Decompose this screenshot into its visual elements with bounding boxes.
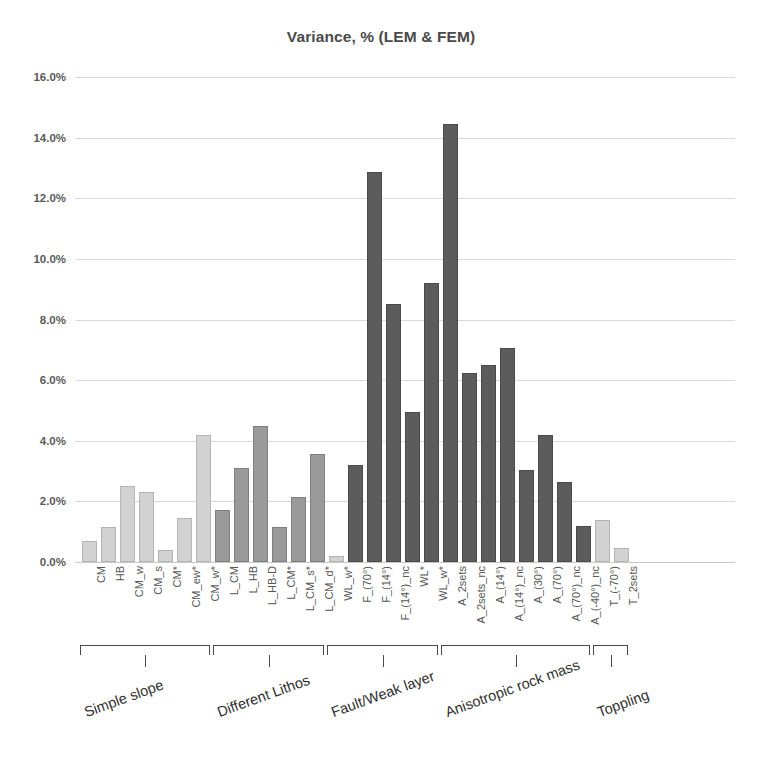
x-axis-tick-label: CM* [171,566,183,587]
bar [196,435,211,562]
x-axis-tick-label: T_(-70°) [608,566,620,606]
chart-title: Variance, % (LEM & FEM) [0,28,762,46]
gridline-00 [75,562,735,563]
bar [348,465,363,562]
group-brace-tick [383,655,384,667]
x-axis-tick-label: CM_w [133,566,145,597]
group-brace-tick [516,655,517,667]
x-axis-tick-label: L_CM [228,566,240,595]
x-axis-tick-label: CM_ew* [190,566,202,608]
x-axis-tick-label: A_(70°)_nc [570,566,582,621]
bar [614,548,629,562]
x-axis-tick-label: A_(70°) [551,566,563,603]
x-axis-tick-label: A_(14°)_nc [513,566,525,621]
x-axis-tick-label: WL* [418,566,430,587]
bar [291,497,306,562]
group-brace-tick [269,655,270,667]
x-axis-tick-label: L_CM_d* [323,566,335,612]
bar [215,510,230,562]
y-axis-tick-label: 6.0% [0,374,66,386]
y-axis-tick-label: 8.0% [0,314,66,326]
gridline-160 [75,77,735,78]
x-axis-tick-label: A_2sets_nc [475,566,487,623]
group-brace [213,645,324,655]
x-axis-tick-label: A_2sets [456,566,468,606]
x-axis-tick-label: T_2sets [627,566,639,605]
bar [519,470,534,562]
bar [329,556,344,562]
bar [234,468,249,562]
x-axis-tick-label: CM_w* [209,566,221,601]
gridline-60 [75,380,735,381]
x-axis-tick-label: HB [114,566,126,581]
group-brace [327,645,438,655]
bar [386,304,401,562]
x-axis-tick-label: F_(14°)_nc [399,566,411,621]
bar [158,550,173,562]
group-label: Toppling [595,687,651,721]
x-axis-tick-label: A_(30°) [532,566,544,603]
y-axis-tick-label: 10.0% [0,253,66,265]
x-axis-tick-label: L_CM_s* [304,566,316,611]
chart-container: Variance, % (LEM & FEM) 0.0%2.0%4.0%6.0%… [0,0,762,780]
group-brace [593,645,628,655]
bar [576,526,591,562]
group-label: Fault/Weak layer [329,668,436,720]
bar [177,518,192,562]
x-axis-tick-label: L_CM* [285,566,297,600]
bar [557,482,572,562]
bar [101,527,116,562]
y-axis-tick-label: 14.0% [0,132,66,144]
x-axis-tick-label: F_(14°) [380,566,392,603]
y-axis-tick-label: 4.0% [0,435,66,447]
group-brace-tick [611,655,612,667]
gridline-80 [75,320,735,321]
group-label: Simple slope [82,677,165,720]
y-axis-tick-label: 12.0% [0,192,66,204]
y-axis-tick-label: 2.0% [0,495,66,507]
bar [405,412,420,562]
bar [462,373,477,562]
y-axis-tick-label: 16.0% [0,71,66,83]
bar [82,541,97,562]
bar [120,486,135,562]
group-brace [441,645,590,655]
bar [310,454,325,562]
x-axis-tick-label: L_HB [247,566,259,594]
x-axis-tick-label: WL_w* [437,566,449,601]
gridline-140 [75,138,735,139]
x-axis-tick-label: L_HB-D [266,566,278,605]
group-label: Different Lithos [215,672,312,720]
bar [253,426,268,562]
bar [272,527,287,562]
x-axis-tick-label: F_(70°) [361,566,373,603]
group-label: Anisotropic rock mass [443,656,582,720]
group-brace [80,645,210,655]
y-axis-tick-label: 0.0% [0,556,66,568]
x-axis-tick-label: A_(-40°)_nc [589,566,601,625]
x-axis-tick-label: A_(14°) [494,566,506,603]
group-brace-tick [145,655,146,667]
bar [367,172,382,562]
bar [481,365,496,562]
plot-area [75,77,735,562]
bar [538,435,553,562]
x-axis-tick-label: CM [95,566,107,583]
gridline-120 [75,198,735,199]
x-axis-tick-label: WL_w* [342,566,354,601]
x-axis-tick-label: CM_s [152,566,164,595]
bar [500,348,515,562]
bar [595,520,610,562]
bar [443,124,458,562]
gridline-100 [75,259,735,260]
bar [424,283,439,562]
bar [139,492,154,562]
